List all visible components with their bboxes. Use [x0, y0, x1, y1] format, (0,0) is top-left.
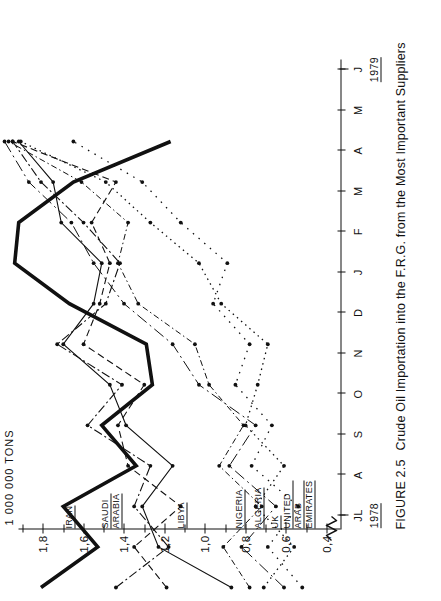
data-point	[85, 423, 89, 427]
x-axis-tick-label: M	[351, 105, 363, 115]
data-point	[255, 382, 259, 386]
x-axis-tick-label: A	[351, 471, 363, 479]
series-axis-label-saudi-arabia: SAUDIARABIA	[100, 493, 122, 528]
x-axis-tick-label: N	[351, 349, 363, 357]
data-point	[193, 342, 197, 346]
x-axis-tick	[337, 230, 345, 231]
x-axis-tick	[337, 433, 345, 434]
y-axis-tick	[123, 523, 124, 533]
x-axis-tick	[337, 473, 345, 474]
y-axis-tick	[42, 523, 43, 533]
data-point	[261, 585, 265, 589]
x-axis-tick-label: M	[351, 186, 363, 196]
data-point	[197, 382, 201, 386]
y-axis-tick	[22, 524, 23, 532]
series-algeria	[6, 139, 263, 589]
x-axis-tick	[337, 190, 345, 191]
y-axis-tick-label: 0,6	[279, 535, 291, 552]
series-nigeria	[16, 139, 232, 589]
plot-area	[0, 131, 322, 601]
y-axis-tick-label: 1,8	[36, 535, 48, 552]
x-axis-tick	[337, 392, 345, 393]
x-axis-tick-label: O	[351, 389, 363, 398]
series-axis-label-libya: LIBYA	[176, 502, 187, 528]
data-point	[148, 220, 152, 224]
series-axis-label-uk: UK	[270, 515, 281, 528]
data-point	[39, 180, 43, 184]
series-axis-label-algeria: ALGERIA	[253, 487, 264, 528]
data-point	[124, 423, 128, 427]
figure-caption: FIGURE 2.5Crude Oil Importation into the…	[392, 29, 408, 529]
data-point	[211, 301, 215, 305]
x-axis-tick	[337, 352, 345, 353]
series-axis-label-united-arab-emirates: UNITEDARABEMIRATES	[282, 480, 315, 528]
data-point	[126, 463, 130, 467]
y-axis-tick	[204, 523, 205, 533]
series-saudi-arabia	[10, 139, 170, 589]
axis-break-squiggle	[325, 515, 337, 541]
x-axis-tick-label: F	[351, 228, 363, 235]
data-point	[207, 382, 211, 386]
x-axis-tick	[337, 271, 345, 272]
series-axis-label-nigeria: NIGERIA	[234, 489, 245, 528]
y-axis-tick	[83, 523, 84, 533]
rotated-figure-container: 1 000 000 TONS 1,81,61,41,21,00,80,60,4I…	[0, 0, 441, 601]
y-axis-tick	[164, 523, 165, 533]
data-point	[225, 261, 229, 265]
data-point	[107, 261, 111, 265]
x-axis-tick-label: JL	[351, 509, 363, 522]
data-point	[197, 261, 201, 265]
data-point	[265, 342, 269, 346]
x-axis: JLASONDJFMAMJ19781979	[340, 59, 341, 529]
data-point	[69, 220, 73, 224]
x-axis-tick-label: A	[351, 146, 363, 154]
data-point	[300, 585, 304, 589]
data-point	[114, 585, 118, 589]
year-label: 1978	[367, 502, 381, 527]
data-point	[227, 463, 231, 467]
y-axis-tick	[265, 524, 266, 532]
data-point	[247, 342, 251, 346]
figure-page: 1 000 000 TONS 1,81,61,41,21,00,80,60,4I…	[0, 0, 441, 601]
x-axis-tick	[337, 149, 345, 150]
x-axis-tick-label: D	[351, 308, 363, 316]
data-point	[170, 342, 174, 346]
data-point	[6, 139, 10, 143]
data-point	[247, 585, 251, 589]
data-point	[265, 545, 269, 549]
data-point	[59, 220, 63, 224]
data-point	[2, 139, 6, 143]
data-point	[71, 139, 75, 143]
figure-number: FIGURE 2.5	[393, 459, 407, 529]
series-lines	[0, 131, 322, 601]
data-point	[132, 545, 136, 549]
figure-caption-text: Crude Oil Importation into the F.R.G. fr…	[393, 42, 407, 450]
data-point	[178, 220, 182, 224]
series-axis-label-iran: IRAN	[64, 505, 75, 528]
data-point	[219, 301, 223, 305]
y-axis: 1,81,61,41,21,00,80,60,4IRANSAUDIARABIAL…	[18, 528, 340, 529]
x-axis-tick	[337, 109, 345, 110]
y-axis-tick	[225, 524, 226, 532]
data-point	[142, 382, 146, 386]
data-point	[120, 382, 124, 386]
y-axis-tick-label: 1,4	[117, 535, 129, 552]
data-point	[229, 585, 233, 589]
data-point	[221, 545, 225, 549]
year-label: 1979	[367, 56, 381, 81]
y-axis-tick	[144, 524, 145, 532]
data-point	[292, 545, 296, 549]
data-point	[136, 301, 140, 305]
data-point	[282, 463, 286, 467]
y-axis-tick-label: 0,8	[239, 535, 251, 552]
y-axis-tick-label: 1,6	[77, 535, 89, 552]
data-point	[114, 180, 118, 184]
x-axis-tick	[337, 311, 345, 312]
data-point	[26, 180, 30, 184]
figure: 1 000 000 TONS 1,81,61,41,21,00,80,60,4I…	[0, 0, 441, 601]
x-axis-tick-label: J	[351, 66, 363, 72]
data-point	[55, 342, 59, 346]
x-axis-tick-label: J	[351, 269, 363, 275]
series-libya	[10, 139, 182, 589]
data-point	[269, 423, 273, 427]
